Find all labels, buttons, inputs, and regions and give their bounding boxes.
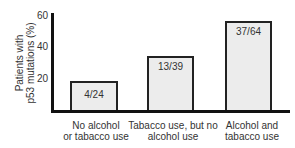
bar-label: 37/64 [227,26,270,37]
x-axis [51,110,290,113]
category-label-line: Alcohol and [210,120,294,131]
bar-label: 4/24 [72,89,116,100]
category-label-1: No alcohol or tabacco use [54,120,138,142]
category-label-line: No alcohol [54,120,138,131]
y-axis-label-line1: Patients with [14,8,25,118]
y-axis-label-line2: p53 mutations (%) [25,8,36,118]
bar-label: 13/39 [149,61,192,72]
y-tick-60: 60 [28,10,48,21]
y-axis [51,13,54,113]
category-label-line: Tabacco use, but no [127,120,219,131]
category-label-line: or tabacco use [54,131,138,142]
y-tick-40: 40 [28,41,48,52]
category-label-2: Tabacco use, but no alcohol use [127,120,219,142]
category-label-3: Alcohol and tabacco use [210,120,294,142]
category-label-line: alcohol use [127,131,219,142]
category-label-line: tabacco use [210,131,294,142]
bar-no-alcohol-tobacco: 4/24 [70,81,118,110]
y-tick-20: 20 [28,73,48,84]
y-axis-label: Patients with p53 mutations (%) [14,8,40,118]
bar-tobacco-only: 13/39 [147,56,194,110]
bar-alcohol-and-tobacco: 37/64 [225,21,272,110]
